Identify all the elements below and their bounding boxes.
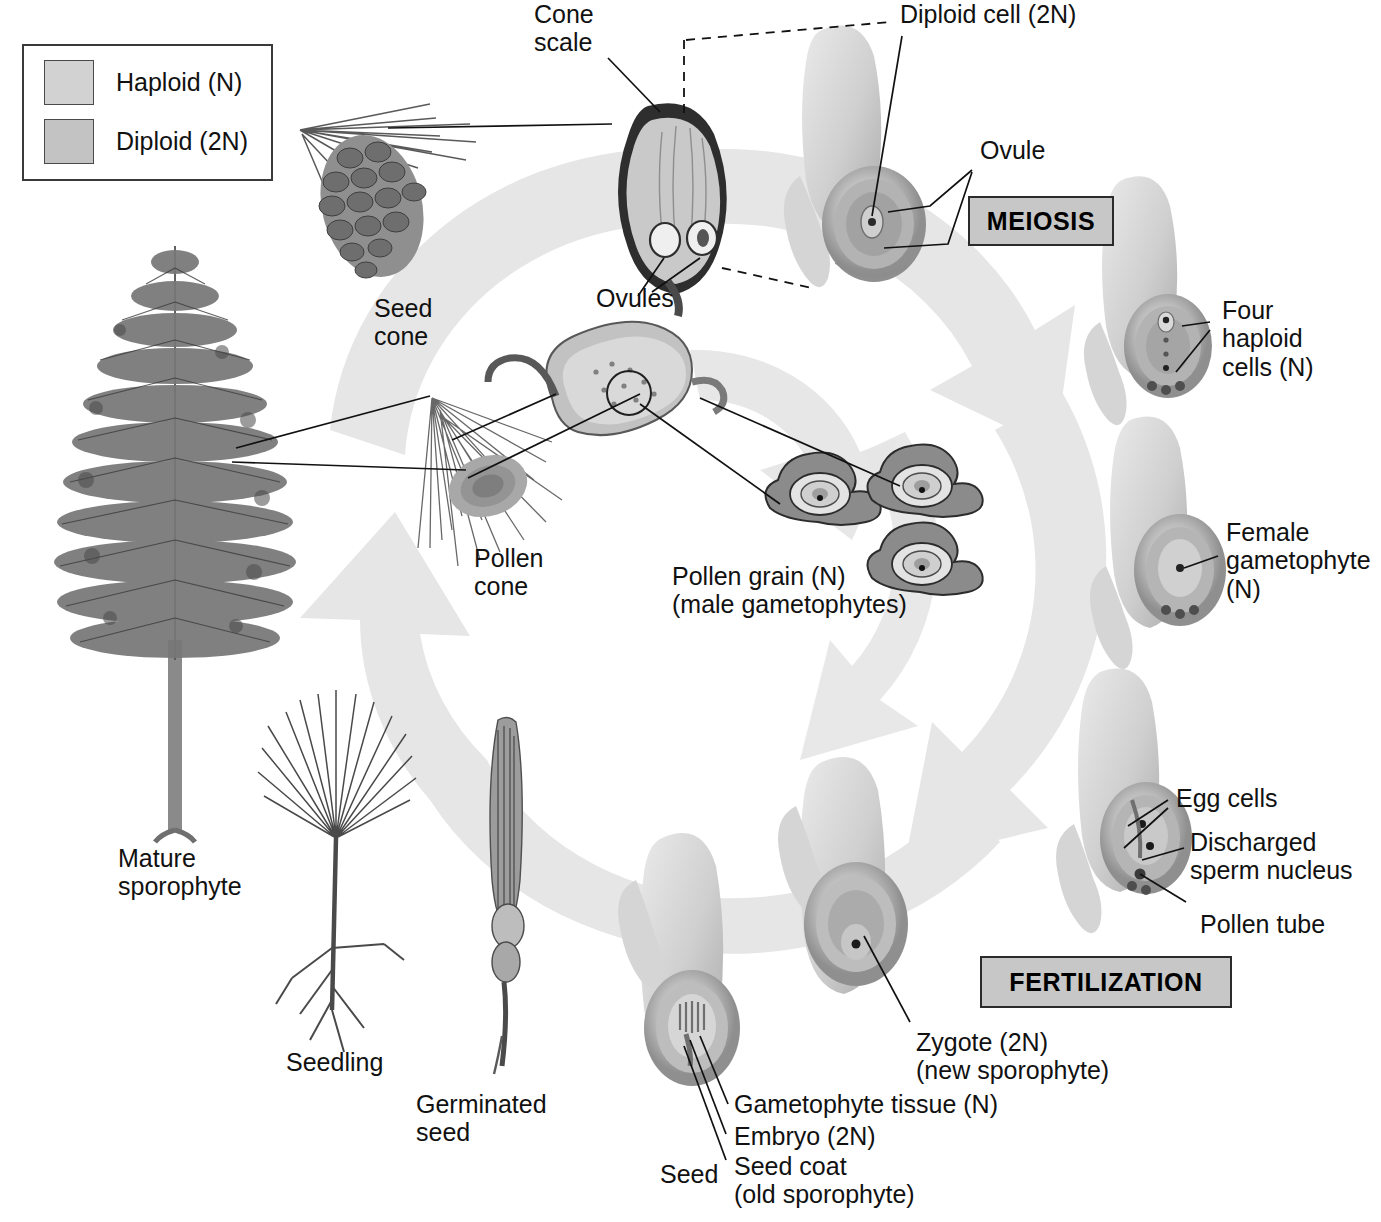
label-pollen-grain: Pollen grain (N) (male gametophytes) xyxy=(672,562,907,619)
label-egg-cells: Egg cells xyxy=(1176,784,1277,812)
label-pollen-tube: Pollen tube xyxy=(1200,910,1325,938)
label-gametophyte-tissue: Gametophyte tissue (N) xyxy=(734,1090,998,1118)
label-seedling: Seedling xyxy=(286,1048,383,1076)
label-discharged-sperm-nucleus: Discharged sperm nucleus xyxy=(1190,828,1353,885)
label-embryo: Embryo (2N) xyxy=(734,1122,876,1150)
life-cycle-diagram: Haploid (N) Diploid (2N) xyxy=(0,0,1381,1222)
label-four-haploid-cells: Four haploid cells (N) xyxy=(1222,296,1314,381)
label-diploid-cell: Diploid cell (2N) xyxy=(900,0,1076,28)
label-seed-cone: Seed cone xyxy=(374,294,432,351)
label-female-gametophyte: Female gametophyte (N) xyxy=(1226,518,1371,603)
label-mature-sporophyte: Mature sporophyte xyxy=(118,844,242,901)
label-seed-coat: Seed coat (old sporophyte) xyxy=(734,1152,915,1209)
process-box-fertilization: FERTILIZATION xyxy=(980,956,1232,1008)
label-ovule: Ovule xyxy=(980,136,1045,164)
label-cone-scale: Cone scale xyxy=(534,0,594,57)
process-box-meiosis: MEIOSIS xyxy=(968,196,1114,246)
label-germinated-seed: Germinated seed xyxy=(416,1090,547,1147)
label-seed: Seed xyxy=(660,1160,718,1188)
label-zygote: Zygote (2N) (new sporophyte) xyxy=(916,1028,1109,1085)
label-pollen-cone: Pollen cone xyxy=(474,544,544,601)
label-ovules: Ovules xyxy=(596,284,674,312)
